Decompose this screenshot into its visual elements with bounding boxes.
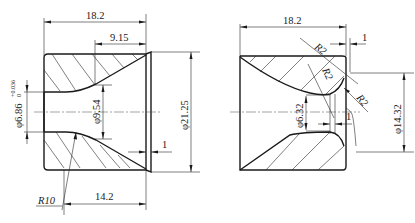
left-overall-length-label: 18.2 [86, 10, 104, 21]
left-bore-diameter-label: φ6.86 [13, 104, 24, 128]
left-outer-diameter-label: φ21.25 [179, 100, 190, 130]
right-outer-diameter-label: φ14.32 [392, 104, 403, 134]
left-land-length-label: 14.2 [95, 191, 113, 202]
right-bore-diameter-label: φ6.32 [294, 104, 305, 128]
left-throat-diameter-label: φ9.54 [91, 99, 102, 124]
left-lower-profile [44, 132, 146, 169]
left-radius-label: R10 [37, 195, 56, 206]
right-land-offset-label: 1 [346, 111, 351, 122]
right-view: 18.2 R2 R2 R2 1 φ6.32 [230, 15, 414, 170]
left-land-offset-label: 1 [162, 139, 167, 150]
left-upper-hatching [44, 54, 138, 91]
right-radius-top-label: R2 [312, 40, 329, 57]
left-bore-tol-lower: 0 [16, 94, 22, 97]
right-lower-hatching [266, 132, 344, 170]
left-view: 18.2 9.15 φ6.86 +0.036 0 φ9.54 [10, 10, 200, 215]
right-lower-profile [240, 132, 344, 170]
left-lower-hatching [44, 132, 130, 168]
technical-drawing: 18.2 9.15 φ6.86 +0.036 0 φ9.54 [0, 0, 415, 223]
right-radius-right-label: R2 [354, 91, 371, 108]
right-overall-length-label: 18.2 [283, 15, 301, 26]
right-radius-mid-label: R2 [320, 65, 336, 82]
right-top-offset-label: 1 [362, 32, 367, 43]
left-cone-length-label: 9.15 [110, 32, 128, 43]
